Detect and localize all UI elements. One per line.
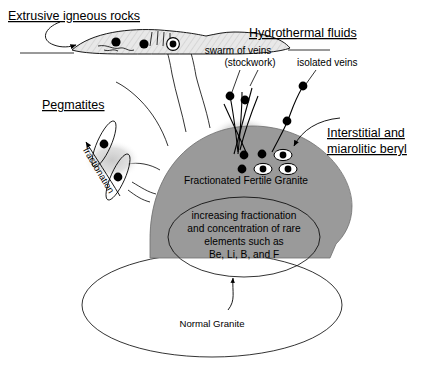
pegmatites-label: Pegmatites — [42, 98, 105, 112]
conduit-right-wall — [190, 50, 210, 128]
pegmatite-tail-2 — [132, 182, 156, 194]
beryl-crystal — [111, 37, 120, 46]
miarolitic-beryl — [254, 163, 272, 174]
miarolitic-beryl — [167, 38, 180, 51]
conduit-branch-left — [116, 82, 168, 146]
swarm-leader-line — [232, 70, 240, 92]
beryl-crystal — [100, 140, 109, 149]
beryl-crystal — [283, 117, 292, 126]
miarolitic-beryl — [279, 163, 297, 174]
isolated-veins-leader-line — [306, 70, 316, 84]
extrusive-pointer-arrow — [45, 22, 76, 47]
swarm-of-veins-label-line2: (stockwork) — [224, 57, 275, 68]
beryl-crystal — [241, 96, 250, 105]
swarm-of-veins-label-line1: swarm of veins — [205, 45, 272, 56]
callout-line-4: Be, Li, B, and F — [209, 249, 279, 260]
extrusive-igneous-rocks-label: Extrusive igneous rocks — [8, 9, 140, 23]
beryl-crystal — [258, 150, 267, 159]
normal-to-fertile-arrow — [228, 278, 233, 310]
interstitial-beryl-label-line1: Interstitial and — [327, 126, 405, 140]
conduit-left-wall — [166, 48, 186, 132]
interstitial-beryl-label-line2: miarolitic beryl — [327, 142, 407, 156]
beryl-crystal — [226, 92, 235, 101]
normal-granite-outline — [82, 253, 342, 357]
hydrothermal-fluids-label: Hydrothermal fluids — [249, 26, 357, 40]
beryl-crystal — [238, 165, 247, 174]
normal-granite-body: Normal Granite — [82, 253, 342, 357]
beryl-crystal — [240, 151, 249, 160]
beryl-crystal — [114, 173, 123, 182]
beryl-crystal — [299, 82, 308, 91]
isolated-veins-label: isolated veins — [297, 57, 358, 68]
fertile-granite-label: Fractionated Fertile Granite — [184, 175, 308, 186]
callout-line-2: and concentration of rare — [187, 223, 301, 234]
diagram-canvas: Normal Granite Fractionated Fertile Gran… — [0, 0, 426, 381]
beryl-crystal — [139, 39, 148, 48]
miarolitic-beryl — [274, 149, 292, 160]
callout-line-3: elements such as — [204, 236, 283, 247]
normal-granite-label: Normal Granite — [179, 318, 244, 329]
stockwork-leader-line — [250, 70, 258, 86]
callout-line-1: increasing fractionation — [192, 210, 297, 221]
geology-diagram: Normal Granite Fractionated Fertile Gran… — [0, 0, 426, 381]
pegmatite-tail-1 — [128, 190, 150, 202]
